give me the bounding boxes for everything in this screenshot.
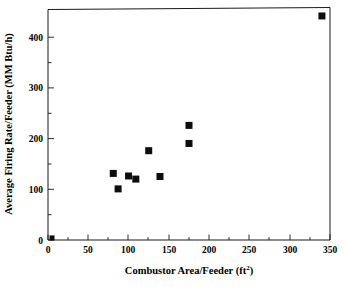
axis-spine-top xyxy=(48,8,330,10)
data-point xyxy=(132,176,139,183)
x-axis-title: Combustor Area/Feeder (ft2) xyxy=(125,264,254,277)
y-axis-title: Average Firing Rate/Feeder (MM Btu/h) xyxy=(3,33,15,215)
data-point xyxy=(318,12,325,19)
data-point xyxy=(115,185,122,192)
y-axis-major-ticks xyxy=(48,37,54,240)
x-tick-label-150: 150 xyxy=(162,245,177,255)
y-tick-label-400: 400 xyxy=(29,33,44,43)
x-axis-title-base: Combustor Area/Feeder (ft xyxy=(125,265,247,277)
data-point xyxy=(186,140,193,147)
y-tick-label-0: 0 xyxy=(38,236,43,246)
y-tick-labels: 0 100 200 300 400 xyxy=(29,33,44,246)
scatter-plot: 0 100 200 300 400 0 50 100 150 200 250 3… xyxy=(0,0,347,287)
data-point-group xyxy=(50,12,326,240)
x-tick-label-300: 300 xyxy=(283,245,298,255)
data-point xyxy=(156,173,163,180)
x-tick-label-50: 50 xyxy=(83,245,93,255)
x-tick-label-250: 250 xyxy=(242,245,257,255)
x-tick-label-200: 200 xyxy=(202,245,217,255)
x-axis-title-tail: ) xyxy=(250,265,254,277)
data-point xyxy=(145,147,152,154)
chart-figure: 0 100 200 300 400 0 50 100 150 200 250 3… xyxy=(0,0,347,287)
x-tick-label-350: 350 xyxy=(323,245,338,255)
y-tick-label-200: 200 xyxy=(29,134,44,144)
y-tick-label-300: 300 xyxy=(29,83,44,93)
data-point xyxy=(186,122,193,129)
x-tick-label-0: 0 xyxy=(46,245,51,255)
data-point xyxy=(50,235,55,240)
data-point xyxy=(110,170,117,177)
data-point xyxy=(125,172,132,179)
y-tick-label-100: 100 xyxy=(29,185,44,195)
svg-text:Combustor Area/Feeder (ft2): Combustor Area/Feeder (ft2) xyxy=(125,264,254,277)
y-axis-title-text: Average Firing Rate/Feeder (MM Btu/h) xyxy=(3,33,15,215)
x-tick-label-100: 100 xyxy=(121,245,136,255)
x-tick-labels: 0 50 100 150 200 250 300 350 xyxy=(46,245,338,255)
